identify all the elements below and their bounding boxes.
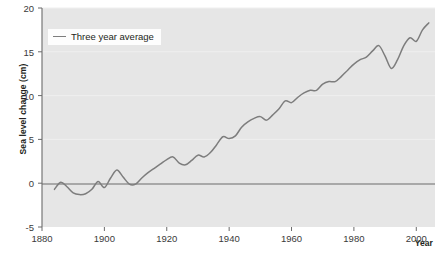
y-tick-label: 15 (8, 46, 34, 57)
y-tick-label: 5 (8, 134, 34, 145)
x-tick-label: 1880 (31, 233, 52, 244)
y-axis-ticks (38, 8, 42, 227)
x-tick-label: 1940 (219, 233, 240, 244)
y-tick-label: 20 (8, 3, 34, 14)
x-tick-label: 1920 (156, 233, 177, 244)
x-axis-ticks (42, 227, 416, 231)
legend-label: Three year average (71, 31, 154, 42)
y-tick-label: 10 (8, 90, 34, 101)
x-tick-label: 1960 (281, 233, 302, 244)
x-tick-label: 1980 (343, 233, 364, 244)
x-tick-label: 1900 (94, 233, 115, 244)
y-tick-label: -5 (8, 222, 34, 233)
legend: Three year average (48, 29, 161, 45)
sea-level-chart: Sea level change (cm) Year -505101520 18… (0, 0, 441, 257)
x-tick-label: 2000 (406, 233, 427, 244)
legend-line-swatch (53, 36, 66, 37)
y-tick-label: 0 (8, 178, 34, 189)
